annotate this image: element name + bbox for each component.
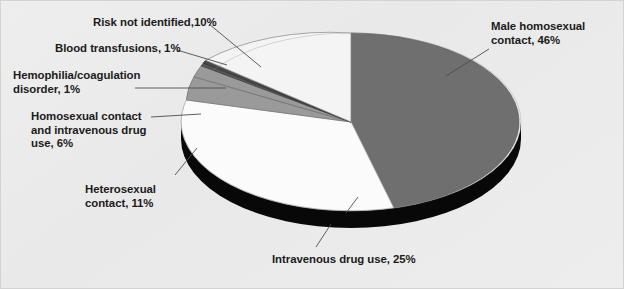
pie-slices <box>181 32 519 210</box>
label-male-homosexual-contact: Male homosexual contact, 46% <box>491 20 585 47</box>
label-intravenous-drug-use: Intravenous drug use, 25% <box>272 253 416 267</box>
label-homosexual-and-intravenous-drug-use: Homosexual contact and intravenous drug … <box>31 110 146 151</box>
label-risk-not-identified: Risk not identified,10% <box>93 16 217 30</box>
label-hemophilia-coagulation-disorder: Hemophilia/coagulation disorder, 1% <box>13 69 140 96</box>
chart-figure: Risk not identified,10% Blood transfusio… <box>0 0 624 289</box>
leader-line-intravenous-drug-use <box>316 224 331 247</box>
label-heterosexual-contact: Heterosexual contact, 11% <box>85 183 156 210</box>
label-blood-transfusions: Blood transfusions, 1% <box>55 42 180 56</box>
